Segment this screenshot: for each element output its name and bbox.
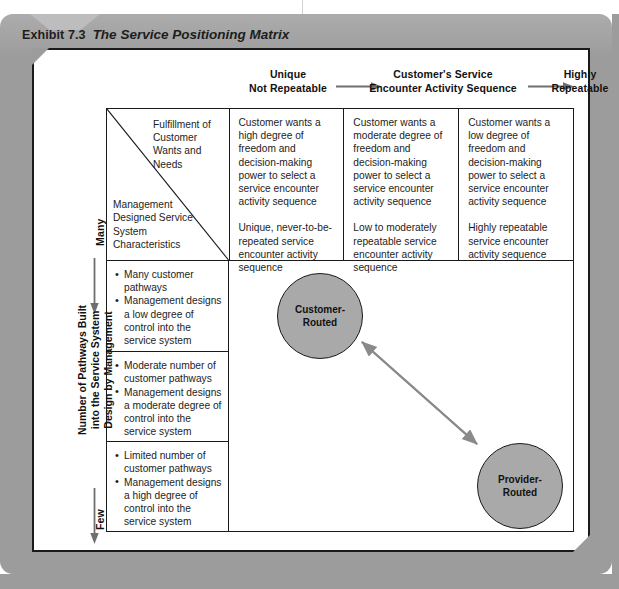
column-axis-label-left-line1: Unique — [230, 68, 346, 82]
column-axis-label-right: Highly Repeatable — [526, 68, 619, 95]
column-header-1-paragraph-1: Customer wants a high degree of freedom … — [239, 116, 336, 208]
corner-label-columns: Fulfillment of Customer Wants and Needs — [153, 118, 227, 171]
matrix-row-header-2: Moderate number of customer pathways Man… — [107, 351, 228, 441]
column-header-3-paragraph-1: Customer wants a low degree of freedom a… — [468, 116, 565, 208]
column-axis-label-center: Customer's Service Encounter Activity Se… — [350, 68, 536, 95]
matrix-column-header-2: Customer wants a moderate degree of free… — [343, 109, 458, 260]
node-customer-routed-line1: Customer- — [295, 303, 345, 316]
exhibit-title: The Service Positioning Matrix — [93, 27, 290, 42]
row-axis-label-bottom: Few — [94, 509, 106, 530]
row-header-3-bullet-1: Limited number of customer pathways — [124, 449, 222, 475]
card-corner-cut-bottomright — [573, 535, 590, 552]
column-axis-label-left: Unique Not Repeatable — [230, 68, 346, 95]
figure-card: Unique Not Repeatable Customer's Service… — [32, 48, 590, 552]
matrix-row-header-column: Many customer pathways Management design… — [107, 261, 229, 531]
matrix-row-header-3: Limited number of customer pathways Mana… — [107, 441, 228, 531]
exhibit-number: Exhibit 7.3 — [22, 28, 86, 42]
row-header-3-bullet-2: Management designs a high degree of cont… — [124, 476, 222, 529]
matrix-plot-area: Customer- Routed Provider- Routed — [229, 261, 573, 531]
page-right-shadow — [612, 14, 619, 589]
matrix-column-header-3: Customer wants a low degree of freedom a… — [458, 109, 573, 260]
column-axis-label-right-line2: Repeatable — [526, 82, 619, 96]
node-provider-routed-line2: Routed — [498, 486, 542, 499]
node-customer-routed-line2: Routed — [295, 316, 345, 329]
column-axis-label-center-line1: Customer's Service — [350, 68, 536, 82]
matrix-column-header-1: Customer wants a high degree of freedom … — [229, 109, 344, 260]
column-axis-label-center-line2: Encounter Activity Sequence — [350, 82, 536, 96]
column-axis: Unique Not Repeatable Customer's Service… — [34, 58, 592, 102]
row-header-2-bullet-2: Management designs a moderate degree of … — [124, 386, 222, 439]
matrix-body: Many customer pathways Management design… — [107, 261, 573, 531]
column-header-2-paragraph-1: Customer wants a moderate degree of free… — [353, 116, 450, 208]
row-header-2-bullet-1: Moderate number of customer pathways — [124, 359, 222, 385]
matrix-header-row: Fulfillment of Customer Wants and Needs … — [107, 109, 573, 261]
positioning-matrix: Fulfillment of Customer Wants and Needs … — [106, 108, 574, 532]
page-bottom-shadow — [0, 574, 619, 589]
exhibit-figure: Exhibit 7.3The Service Positioning Matri… — [0, 0, 619, 589]
page-top-margin — [0, 0, 619, 14]
matrix-corner-cell: Fulfillment of Customer Wants and Needs … — [107, 109, 229, 260]
node-provider-routed[interactable]: Provider- Routed — [477, 443, 563, 529]
row-header-1-bullet-2: Management designs a low degree of contr… — [124, 294, 222, 347]
column-axis-label-right-line1: Highly — [526, 68, 619, 82]
row-axis-label-top: Many — [94, 219, 106, 246]
node-customer-routed[interactable]: Customer- Routed — [277, 273, 363, 359]
row-header-1-bullet-1: Many customer pathways — [124, 268, 222, 294]
column-header-3-paragraph-2: Highly repeatable service encounter acti… — [468, 221, 565, 261]
row-axis-label-main-line1: Number of Pathways Built — [76, 272, 89, 468]
row-axis-label-main-line2: into the Service System — [89, 272, 102, 468]
matrix-row-header-1: Many customer pathways Management design… — [107, 261, 228, 351]
column-axis-label-left-line2: Not Repeatable — [230, 82, 346, 96]
exhibit-caption: Exhibit 7.3The Service Positioning Matri… — [22, 27, 289, 42]
node-provider-routed-line1: Provider- — [498, 473, 542, 486]
corner-label-rows: Management Designed Service System Chara… — [113, 198, 199, 251]
page-gutter-line — [302, 0, 303, 14]
